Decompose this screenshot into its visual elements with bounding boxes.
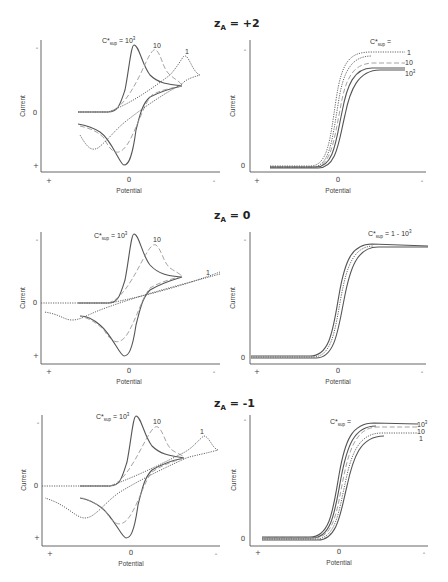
- annotation-csup-1000: C*sup = 103: [94, 231, 128, 241]
- y-tick-bottom: +: [33, 352, 39, 360]
- y-axis-label: Current: [229, 95, 236, 117]
- x-axis-label: Potential: [116, 378, 142, 385]
- axes-frame: [250, 415, 428, 546]
- y-axis-label: Current: [19, 287, 26, 309]
- y-axis-label: Current: [20, 469, 27, 491]
- curve-csup-1000: [78, 234, 182, 356]
- y-tick-mid: 0: [34, 482, 38, 490]
- x-tick-left: +: [255, 549, 261, 557]
- y-tick-bottom: +: [34, 534, 40, 542]
- x-axis-label: Potential: [326, 559, 352, 566]
- curve-csup-1: [41, 272, 220, 320]
- y-tick-bottom: +: [33, 162, 39, 170]
- annotation-csup-10: 10: [153, 418, 161, 425]
- annotation-csup: C*sup =: [330, 418, 351, 427]
- x-tick-right: -: [423, 549, 426, 557]
- curve-csup-1b: [270, 56, 372, 167]
- x-tick-mid: 0: [336, 367, 340, 375]
- annotation-csup-1: 1: [185, 48, 189, 55]
- curve-csup-all-c: [251, 247, 428, 358]
- x-tick-right: -: [213, 177, 216, 185]
- axes-frame: [41, 232, 220, 364]
- y-tick-top: -: [244, 46, 247, 54]
- y-tick-top: -: [244, 416, 247, 424]
- annotation-csup-1: 1: [419, 435, 423, 442]
- annotation-csup-1: 1: [206, 269, 210, 276]
- cv-plot-za-minus1: - 0 + + 0 - Potential Current C*sup = 10…: [20, 412, 220, 567]
- x-tick-left: +: [254, 368, 260, 376]
- curve-csup-1000: [78, 45, 182, 165]
- x-tick-mid: 0: [336, 176, 340, 184]
- curve-csup-10: [78, 50, 182, 152]
- axes-frame: [41, 40, 220, 172]
- x-tick-left: +: [46, 177, 52, 185]
- y-tick-mid: 0: [33, 299, 37, 307]
- y-tick-top: -: [36, 236, 39, 244]
- y-tick-top: -: [36, 44, 39, 52]
- x-tick-left: +: [254, 177, 260, 185]
- annotation-csup-range: C*sup = 1 - 103: [368, 229, 412, 239]
- ss-plot-za-minus1: - 0 + 0 - Potential Current C*sup = 103 …: [230, 415, 428, 566]
- y-tick-mid: 0: [241, 354, 245, 362]
- x-tick-mid: 0: [127, 176, 131, 184]
- y-tick-mid: 0: [241, 162, 245, 170]
- annotation-csup-1000: C*sup = 103: [96, 412, 130, 422]
- x-tick-mid: 0: [129, 549, 133, 557]
- x-tick-left: +: [47, 550, 53, 558]
- ss-plot-za-0: - 0 + 0 - Potential Current C*sup = 1 - …: [229, 229, 428, 385]
- x-tick-left: +: [46, 368, 52, 376]
- curve-csup-10: [80, 427, 184, 524]
- annotation-csup-1000: 103: [417, 420, 428, 428]
- curve-csup-10: [78, 245, 182, 342]
- annotation-csup-1000: C*sup = 103: [102, 36, 136, 46]
- y-tick-top: -: [37, 419, 40, 427]
- annotation-csup-1000: 103: [405, 69, 416, 77]
- curve-csup-all-a: [251, 244, 428, 356]
- y-axis-label: Current: [230, 469, 237, 491]
- y-axis-label: Current: [19, 95, 26, 117]
- figure-canvas: - 0 + + 0 - Potential Current C*sup = 10…: [0, 0, 448, 582]
- y-tick-mid: 0: [241, 535, 245, 543]
- curve-csup-1: [42, 436, 218, 518]
- curve-csup-1: [78, 56, 200, 149]
- x-axis-label: Potential: [118, 560, 144, 567]
- x-tick-right: -: [215, 550, 218, 558]
- curve-csup-all-b: [251, 246, 374, 357]
- x-tick-mid: 0: [127, 367, 131, 375]
- x-tick-right: -: [421, 368, 424, 376]
- x-axis-label: Potential: [325, 378, 351, 385]
- annotation-csup: C*sup =: [370, 38, 391, 47]
- x-axis-label: Potential: [325, 187, 351, 194]
- annotation-csup-1: 1: [200, 428, 204, 435]
- curve-csup-1000b: [262, 426, 376, 538]
- annotation-csup-10: 10: [405, 59, 413, 66]
- annotation-csup-10: 10: [417, 428, 425, 435]
- x-tick-mid: 0: [337, 548, 341, 556]
- x-axis-label: Potential: [116, 187, 142, 194]
- ss-plot-za-plus2: - 0 + 0 - Potential Current C*sup = 1 10…: [229, 38, 426, 194]
- x-tick-right: -: [213, 368, 216, 376]
- y-tick-top: -: [244, 236, 247, 244]
- cv-plot-za-plus2: - 0 + + 0 - Potential Current C*sup = 10…: [19, 36, 220, 194]
- y-axis-label: Current: [229, 287, 236, 309]
- annotation-csup-10: 10: [153, 42, 161, 49]
- cv-plot-za-0: - 0 + + 0 - Potential Current C*sup = 10…: [19, 231, 220, 385]
- curve-csup-10: [270, 63, 405, 167]
- x-tick-right: -: [421, 177, 424, 185]
- annotation-csup-10: 10: [153, 236, 161, 243]
- curve-csup-1000b: [270, 70, 405, 168]
- curve-csup-outer: [262, 436, 384, 540]
- curve-csup-1000: [270, 68, 405, 167]
- annotation-csup-1: 1: [407, 49, 411, 56]
- curve-csup-1000: [262, 423, 418, 537]
- y-tick-mid: 0: [33, 109, 37, 117]
